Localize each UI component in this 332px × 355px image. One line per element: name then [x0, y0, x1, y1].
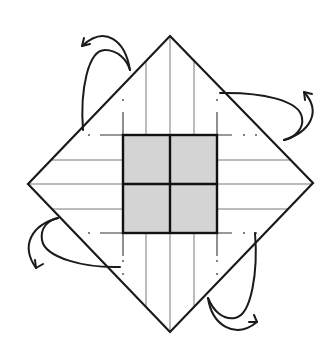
origami-fold-diagram	[0, 0, 332, 355]
fold-arrow-top-right-icon	[220, 92, 313, 140]
fold-arrow-bottom-left-icon	[29, 218, 120, 268]
center-square	[123, 135, 217, 233]
